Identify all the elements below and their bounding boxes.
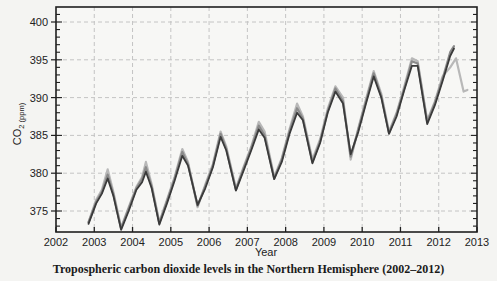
x-tick-label: 2009: [312, 236, 336, 248]
chart-title: Tropospheric carbon dioxide levels in th…: [0, 262, 497, 277]
x-tick-label: 2003: [82, 236, 106, 248]
y-tick-label: 385: [30, 129, 48, 141]
y-axis-label-main: CO: [11, 128, 23, 145]
x-tick-label: 2010: [350, 236, 374, 248]
y-tick-labels: 375380385390395400: [30, 16, 48, 217]
x-tick-label: 2005: [159, 236, 183, 248]
x-axis-label: Year: [255, 246, 278, 258]
x-tick-label: 2011: [389, 236, 413, 248]
x-tick-label: 2012: [426, 236, 450, 248]
plot-area: [56, 7, 477, 232]
y-axis-label: CO2 (ppm): [11, 102, 26, 145]
y-tick-label: 380: [30, 167, 48, 179]
y-tick-label: 390: [30, 92, 48, 104]
x-tick-label: 2002: [44, 236, 68, 248]
y-tick-label: 395: [30, 54, 48, 66]
x-tick-label: 2004: [120, 236, 144, 248]
y-tick-label: 375: [30, 205, 48, 217]
co2-line-chart: 2002200320042005200620072008200920102011…: [0, 0, 497, 281]
y-axis-label-sub: 2 (ppm): [17, 102, 26, 128]
x-tick-label: 2013: [465, 236, 489, 248]
x-tick-label: 2006: [197, 236, 221, 248]
y-tick-label: 400: [30, 16, 48, 28]
